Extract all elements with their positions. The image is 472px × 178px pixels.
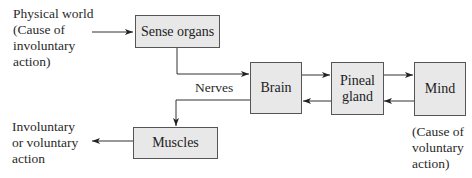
nerves-label: Nerves <box>195 80 233 96</box>
arrow-sense-to-brain <box>177 47 249 74</box>
physical-world-label: Physical world (Cause of involuntary act… <box>13 6 94 70</box>
node-muscles: Muscles <box>133 127 218 159</box>
node-mind: Mind <box>414 62 466 116</box>
arrow-brain-to-muscles <box>176 100 250 126</box>
node-brain: Brain <box>250 62 302 114</box>
node-sense-organs: Sense organs <box>135 15 220 48</box>
action-output-label: Involuntary or voluntary action <box>12 119 78 167</box>
node-pineal-gland: Pineal gland <box>331 62 384 115</box>
mind-cause-label: (Cause of voluntary action) <box>412 124 464 172</box>
